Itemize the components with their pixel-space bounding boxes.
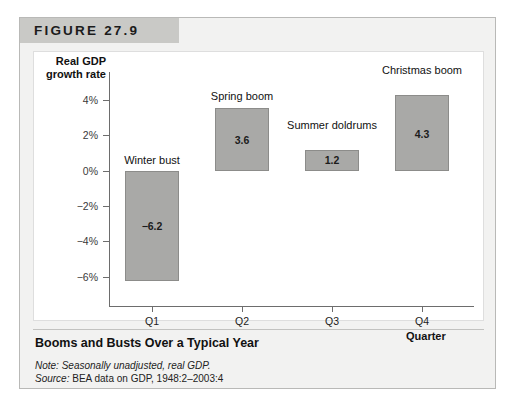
- figure-number-tab: FIGURE 27.9: [20, 18, 179, 43]
- y-tick-label-neg2: −2%: [34, 200, 98, 212]
- figure-source: Source: BEA data on GDP, 1948:2–2003:4: [35, 373, 223, 384]
- y-axis-line: [109, 72, 110, 307]
- bar-value-q2: 3.6: [212, 134, 272, 146]
- x-tick-label-q4: Q4: [392, 315, 452, 327]
- bar-caption-q4: Christmas boom: [367, 64, 477, 77]
- bar-value-q3: 1.2: [302, 154, 362, 166]
- y-tick-neg4: [103, 241, 110, 242]
- x-tick-q1: [152, 306, 153, 312]
- bar-value-q1: −6.2: [122, 220, 182, 232]
- x-tick-q2: [242, 306, 243, 312]
- bar-caption-q1: Winter bust: [97, 154, 207, 167]
- x-tick-label-q2: Q2: [212, 315, 272, 327]
- y-tick-label-2: 2%: [34, 129, 98, 141]
- x-tick-q4: [422, 306, 423, 312]
- y-tick-neg6: [103, 277, 110, 278]
- y-tick-label-0: 0%: [34, 165, 98, 177]
- figure-source-text: BEA data on GDP, 1948:2–2003:4: [72, 373, 223, 384]
- bar-caption-q2: Spring boom: [187, 90, 297, 103]
- caption-divider: [33, 329, 484, 330]
- x-tick-q3: [332, 306, 333, 312]
- x-tick-label-q3: Q3: [302, 315, 362, 327]
- bar-value-q4: 4.3: [392, 128, 452, 140]
- figure-note: Note: Seasonally unadjusted, real GDP.: [35, 360, 210, 371]
- y-tick-label-neg6: −6%: [34, 271, 98, 283]
- figure-source-prefix: Source:: [35, 373, 69, 384]
- chart-plot-panel: Real GDP growth rate 4% 2% 0% −2% −4% −6…: [33, 51, 484, 321]
- bar-chart: Real GDP growth rate 4% 2% 0% −2% −4% −6…: [34, 52, 483, 320]
- y-axis-title-text: Real GDP growth rate: [46, 55, 106, 80]
- x-axis-line: [109, 306, 474, 307]
- x-axis-title: Quarter: [406, 330, 446, 342]
- x-tick-label-q1: Q1: [122, 315, 182, 327]
- figure-card: FIGURE 27.9 Real GDP growth rate 4% 2% 0…: [19, 17, 496, 389]
- y-axis-title: Real GDP growth rate: [34, 55, 106, 81]
- y-tick-label-neg4: −4%: [34, 235, 98, 247]
- figure-number-label: FIGURE 27.9: [34, 23, 139, 38]
- y-tick-2: [103, 135, 110, 136]
- bar-caption-q3: Summer doldrums: [277, 119, 387, 132]
- y-tick-0: [103, 171, 110, 172]
- figure-caption-title: Booms and Busts Over a Typical Year: [35, 336, 259, 350]
- y-tick-neg2: [103, 206, 110, 207]
- y-tick-label-4: 4%: [34, 94, 98, 106]
- y-tick-4: [103, 100, 110, 101]
